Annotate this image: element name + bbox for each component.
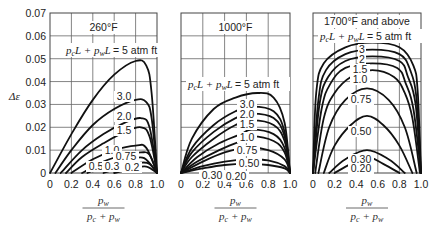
panel-title: 1700°F and above (324, 15, 410, 27)
curve-parameter-annotation: pcL + pwL = 5 atm ft (65, 44, 157, 58)
curve-label: 0.50 (239, 157, 260, 169)
curve-label: 3.0 (117, 90, 132, 102)
svg-text:pw: pw (361, 194, 374, 208)
panel-title: 260°F (89, 21, 117, 33)
y-tick-label: 0 (40, 167, 46, 179)
x-axis-label: pwpc + pw (83, 194, 125, 224)
x-tick-label: 0.2 (327, 178, 342, 190)
curve-label: 2.0 (117, 110, 132, 122)
x-tick-label: 0.8 (128, 178, 143, 190)
svg-text:pc + pw: pc + pw (218, 210, 253, 224)
x-tick-label: 0.6 (107, 178, 122, 190)
curve-label: 0.20 (226, 170, 247, 182)
x-tick-label: 0.2 (64, 178, 79, 190)
curve-label: 1.5 (240, 118, 255, 130)
curve-label: 0.50 (351, 125, 372, 137)
x-tick-label: 0.8 (392, 178, 407, 190)
curve-label: 0.30 (202, 169, 223, 181)
x-tick-label: 0.4 (349, 178, 364, 190)
x-tick-label: 1.0 (414, 178, 429, 190)
x-tick-label: 1.0 (283, 178, 298, 190)
curve-label: 0.2 (125, 161, 140, 173)
x-tick-label: 0.6 (370, 178, 385, 190)
y-tick-label: 0.01 (26, 144, 47, 156)
curve-label: 1.0 (353, 73, 368, 85)
chart-panel-3: 00.20.40.60.81.0pwpc + pw (310, 13, 428, 224)
curve-label: 0.75 (351, 93, 372, 105)
x-tick-label: 0 (178, 178, 184, 190)
y-tick-label: 0.03 (26, 98, 47, 110)
curve-label: 1.5 (117, 124, 132, 136)
curve-label: 0.20 (351, 162, 372, 174)
emissivity-correction-charts: 00.010.020.030.040.050.060.07Δε00.20.40.… (0, 0, 435, 225)
curve-parameter-annotation: pcL + pwL = 5 atm ft (319, 30, 411, 44)
curve-label: 0.75 (237, 144, 258, 156)
y-tick-label: 0.04 (26, 76, 47, 88)
y-tick-label: 0.02 (26, 121, 47, 133)
x-tick-label: 0.8 (261, 178, 276, 190)
curve-3-0 (181, 107, 290, 173)
curve-label: 0.5 (89, 160, 104, 172)
y-axis-label: Δε (8, 90, 20, 102)
x-axis-label: pwpc + pw (215, 194, 257, 224)
y-tick-label: 0.07 (26, 7, 47, 19)
curve-label: 0.3 (105, 160, 120, 172)
panel-title: 1000°F (219, 21, 253, 33)
svg-text:pw: pw (229, 194, 242, 208)
y-tick-label: 0.06 (26, 30, 47, 42)
x-axis-label: pwpc + pw (346, 194, 388, 224)
x-tick-label: 0 (47, 178, 53, 190)
curve-label: 1.0 (240, 131, 255, 143)
x-tick-label: 1.0 (150, 178, 165, 190)
svg-text:pc + pw: pc + pw (86, 210, 121, 224)
curve-parameter-annotation: pcL + pwL = 5 atm ft (187, 78, 279, 92)
svg-text:pw: pw (97, 194, 110, 208)
y-tick-label: 0.05 (26, 53, 47, 65)
svg-text:pc + pw: pc + pw (350, 210, 385, 224)
x-tick-label: 0.4 (85, 178, 100, 190)
x-tick-label: 0 (310, 178, 316, 190)
